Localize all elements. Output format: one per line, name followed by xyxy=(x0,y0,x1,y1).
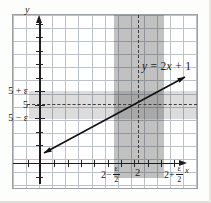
x-tick-label-2-minus-eps-half: 2− ε 2 xyxy=(101,165,120,184)
fraction-numerator: ε xyxy=(177,165,180,173)
fraction: ε 2 xyxy=(176,165,183,184)
x-right-prefix: 2+ xyxy=(164,170,175,180)
y-axis-label: y xyxy=(25,4,29,15)
y-tick-label-5-plus-eps: 5 + ε xyxy=(0,85,28,97)
equation-equals-2: = 2 xyxy=(147,60,166,72)
x-tick-label-2-plus-eps-half: 2+ ε 2 xyxy=(164,165,183,184)
function-line xyxy=(13,15,197,188)
line-y-2x-plus-1 xyxy=(44,77,185,153)
x-left-prefix: 2− xyxy=(101,170,112,180)
y-tick-label-5-minus-eps: 5 − ε xyxy=(0,112,28,124)
fraction: ε 2 xyxy=(113,165,120,184)
y-tick-label-5: 5 xyxy=(0,99,28,111)
x-axis-label: x xyxy=(185,165,189,175)
fraction-numerator: ε xyxy=(114,165,117,173)
line-arrowhead-left-icon xyxy=(44,147,52,153)
line-arrowhead-right-icon xyxy=(177,77,185,83)
fraction-denominator: 2 xyxy=(114,176,118,184)
x-tick-label-2: 2 xyxy=(135,167,140,178)
equation-plus-1: + 1 xyxy=(172,60,191,72)
plot-frame: y x y = 2x + 1 5 + ε 5 5 − ε 2− ε 2 2 2+… xyxy=(12,14,198,189)
equation-label: y = 2x + 1 xyxy=(142,60,191,72)
epsilon-delta-limit-figure: y x y = 2x + 1 5 + ε 5 5 − ε 2− ε 2 2 2+… xyxy=(0,0,211,203)
fraction-denominator: 2 xyxy=(177,176,181,184)
